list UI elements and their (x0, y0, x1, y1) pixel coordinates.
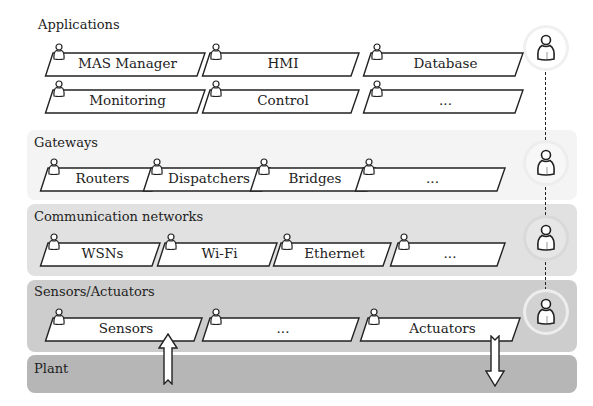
agent-icon (52, 43, 66, 61)
agent-icon (362, 158, 376, 176)
down-arrow-icon (485, 335, 505, 387)
agent-icon (52, 80, 66, 98)
sa-sensors[interactable]: Sensors (45, 317, 202, 339)
app-control[interactable]: Control (202, 89, 359, 111)
applications-agent-icon (526, 28, 566, 68)
sa-more[interactable]: ... (202, 317, 359, 339)
app-database[interactable]: Database (363, 52, 523, 74)
agent-icon (47, 233, 61, 251)
agent-icon (397, 233, 411, 251)
gateways-agent-icon (526, 143, 566, 183)
agent-icon (257, 158, 271, 176)
communication-label: Communication networks (34, 209, 203, 224)
app-more[interactable]: ... (363, 89, 523, 111)
sensors-agent-icon (526, 292, 566, 332)
agent-icon (209, 43, 223, 61)
agent-icon (150, 158, 164, 176)
gateways-label: Gateways (34, 135, 98, 150)
agent-icon (47, 158, 61, 176)
gw-more[interactable]: ... (355, 167, 505, 189)
agent-icon (280, 233, 294, 251)
app-mas-manager[interactable]: MAS Manager (45, 52, 205, 74)
app-hmi[interactable]: HMI (202, 52, 359, 74)
agent-icon (370, 43, 384, 61)
plant-label: Plant (34, 361, 68, 376)
agent-icon (209, 308, 223, 326)
communication-agent-icon (526, 218, 566, 258)
sensors-label: Sensors/Actuators (34, 284, 155, 299)
agent-icon (52, 308, 66, 326)
applications-label: Applications (38, 17, 120, 32)
agent-icon (164, 233, 178, 251)
agent-icon (209, 80, 223, 98)
agent-icon (370, 80, 384, 98)
agent-icon (367, 308, 381, 326)
app-monitoring[interactable]: Monitoring (45, 89, 205, 111)
up-arrow-icon (158, 333, 178, 385)
